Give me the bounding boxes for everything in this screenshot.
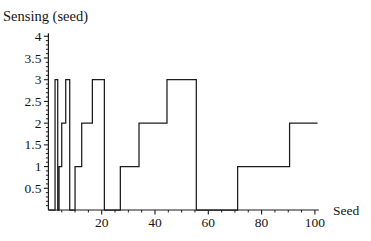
- x-axis-label: Seed: [333, 203, 359, 218]
- x-axis-tick-labels: 20406080100: [95, 215, 325, 230]
- y-tick-label: 0.5: [25, 181, 42, 196]
- axes: [48, 33, 319, 210]
- x-axis-ticks: [62, 210, 315, 215]
- y-tick-label: 3.5: [25, 51, 42, 66]
- y-tick-label: 2.5: [25, 94, 42, 109]
- y-tick-label: 1.5: [25, 137, 42, 152]
- plot-canvas: Sensing (seed) Seed 20406080100 0.511.52…: [0, 0, 371, 241]
- y-tick-label: 3: [35, 72, 42, 87]
- x-tick-label: 80: [255, 215, 269, 230]
- x-tick-label: 40: [148, 215, 162, 230]
- y-tick-label: 4: [35, 29, 42, 44]
- x-tick-label: 100: [305, 215, 326, 230]
- y-tick-label: 2: [35, 116, 42, 131]
- y-axis-ticks: [44, 36, 49, 205]
- x-tick-label: 20: [95, 215, 109, 230]
- sensing-step-line: [48, 80, 317, 210]
- chart: Sensing (seed) Seed 20406080100 0.511.52…: [0, 0, 371, 241]
- x-tick-label: 60: [202, 215, 216, 230]
- series-lines: [48, 80, 317, 210]
- y-axis-title: Sensing (seed): [3, 8, 88, 25]
- y-axis-tick-labels: 0.511.522.533.54: [25, 29, 42, 196]
- y-tick-label: 1: [35, 159, 42, 174]
